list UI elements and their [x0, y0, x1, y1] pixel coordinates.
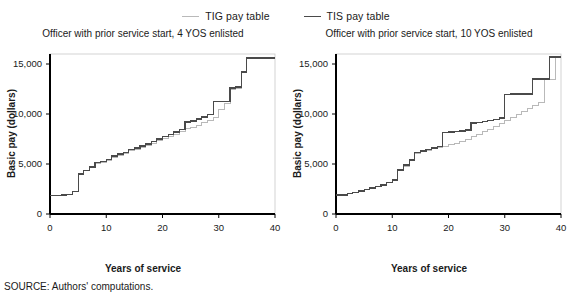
chart-panel-right: Officer with prior service start, 10 YOS…: [286, 28, 572, 274]
legend-label-tis: TIS pay table: [327, 10, 390, 22]
plot-svg-left: 05,00010,00015,000010203040: [0, 46, 286, 256]
x-tick-label: 40: [270, 222, 281, 233]
legend-item-tig: TIG pay table: [182, 10, 269, 22]
x-tick-label: 20: [157, 222, 168, 233]
plot-svg-right: 05,00010,00015,000010203040: [286, 46, 572, 256]
y-tick-label: 15,000: [13, 58, 42, 69]
figure-root: TIG pay table TIS pay table Officer with…: [0, 0, 572, 297]
y-tick-label: 15,000: [299, 58, 328, 69]
source-note: SOURCE: Authors' computations.: [4, 281, 153, 292]
legend-label-tig: TIG pay table: [205, 10, 269, 22]
x-tick-label: 20: [443, 222, 454, 233]
x-tick-label: 0: [333, 222, 338, 233]
plot-area-left: Basic pay (dollars) 05,00010,00015,00001…: [0, 46, 286, 274]
panel-title-left: Officer with prior service start, 4 YOS …: [0, 28, 286, 39]
y-tick-label: 5,000: [18, 158, 42, 169]
series-line-tig: [336, 57, 561, 195]
chart-panel-left: Officer with prior service start, 4 YOS …: [0, 28, 286, 274]
plot-area-right: Basic pay (dollars) 05,00010,00015,00001…: [286, 46, 572, 274]
legend-line-icon-tig: [182, 16, 199, 17]
x-tick-label: 10: [387, 222, 398, 233]
legend-item-tis: TIS pay table: [304, 10, 390, 22]
y-tick-label: 5,000: [304, 158, 328, 169]
x-tick-label: 0: [47, 222, 52, 233]
series-line-tis: [336, 57, 561, 195]
legend-line-icon-tis: [304, 16, 321, 17]
y-tick-label: 10,000: [13, 108, 42, 119]
x-tick-label: 10: [101, 222, 112, 233]
x-axis-label-left: Years of service: [0, 263, 286, 274]
x-axis-label-right: Years of service: [286, 263, 572, 274]
chart-legend: TIG pay table TIS pay table: [0, 10, 572, 22]
y-tick-label: 10,000: [299, 108, 328, 119]
y-tick-label: 0: [323, 208, 328, 219]
x-tick-label: 30: [499, 222, 510, 233]
x-tick-label: 40: [556, 222, 567, 233]
x-tick-label: 30: [213, 222, 224, 233]
panel-title-right: Officer with prior service start, 10 YOS…: [286, 28, 572, 39]
y-tick-label: 0: [37, 208, 42, 219]
series-line-tis: [50, 58, 275, 196]
